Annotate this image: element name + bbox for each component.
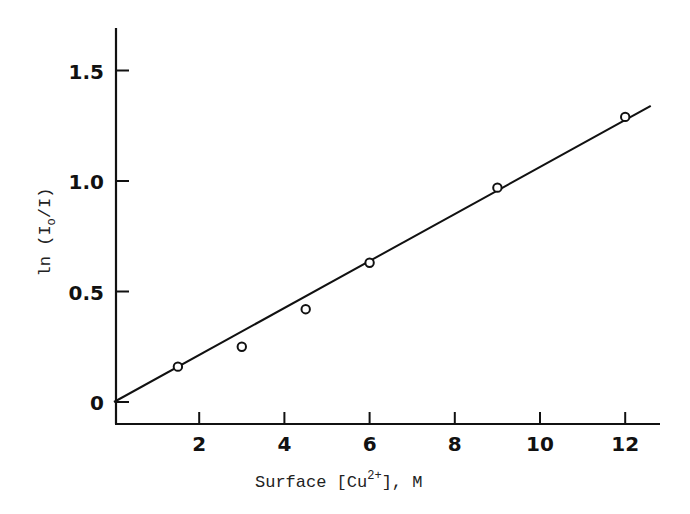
data-point: [302, 305, 310, 313]
y-axis-label: ln (Io/I): [36, 188, 59, 277]
x-ticks: 24681012: [192, 412, 639, 456]
fit-line: [114, 106, 651, 402]
y-tick-label: 0.5: [69, 281, 104, 305]
data-point: [493, 183, 501, 191]
x-tick-label: 8: [448, 432, 462, 456]
regression-line: [114, 106, 651, 402]
y-ticks: 00.51.01.5: [69, 60, 129, 416]
x-axis-label: Surface [Cu2+], M: [255, 469, 422, 492]
axes: [115, 28, 660, 424]
data-point: [174, 362, 182, 370]
y-tick-label: 1.5: [69, 60, 104, 84]
chart: 00.51.01.5 24681012 Surface [Cu2+], M ln…: [0, 0, 690, 514]
y-tick-label: 0: [90, 391, 104, 415]
x-tick-label: 4: [277, 432, 291, 456]
x-tick-label: 12: [611, 432, 639, 456]
x-tick-label: 6: [363, 432, 377, 456]
y-tick-label: 1.0: [69, 170, 104, 194]
x-tick-label: 2: [192, 432, 206, 456]
data-point: [365, 259, 373, 267]
data-point: [238, 343, 246, 351]
x-tick-label: 10: [526, 432, 554, 456]
data-point: [621, 113, 629, 121]
